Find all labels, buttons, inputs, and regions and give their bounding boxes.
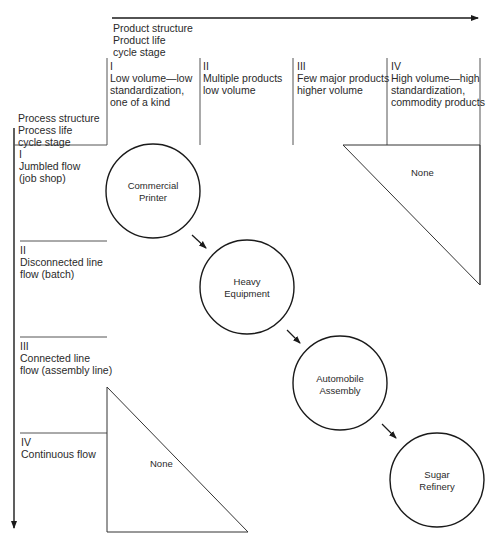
- bottom-left-none-label: None: [150, 458, 173, 469]
- row-header-iii: III Connected line flow (assembly line): [20, 340, 112, 376]
- row-header-i: I Jumbled flow (job shop): [19, 148, 80, 184]
- row-header-iv: IV Continuous flow: [21, 436, 96, 460]
- bottom-left-none-triangle: [107, 387, 248, 532]
- node-automobile-assembly: Automobile Assembly: [295, 373, 385, 397]
- column-header-i: I Low volume—low standardization, one of…: [110, 60, 192, 108]
- node-commercial-printer: Commercial Printer: [108, 180, 198, 204]
- column-header-ii: II Multiple products low volume: [203, 60, 282, 96]
- row-header-ii: II Disconnected line flow (batch): [20, 244, 103, 280]
- arrow-equipment-to-automobile: [287, 330, 300, 343]
- product-axis-title: Product structure Product life cycle sta…: [113, 22, 193, 58]
- row-dividers: [14, 145, 107, 433]
- node-heavy-equipment: Heavy Equipment: [202, 276, 292, 300]
- column-header-iv: IV High volume—high standardization, com…: [391, 60, 485, 108]
- node-sugar-refinery: Sugar Refinery: [392, 469, 482, 493]
- process-axis-title: Process structure Process life cycle sta…: [18, 112, 100, 148]
- top-right-none-label: None: [411, 167, 434, 178]
- arrow-printer-to-equipment: [192, 235, 206, 248]
- arrow-automobile-to-sugar: [382, 424, 396, 438]
- top-right-none-triangle: [343, 145, 480, 285]
- column-header-iii: III Few major products higher volume: [297, 60, 389, 96]
